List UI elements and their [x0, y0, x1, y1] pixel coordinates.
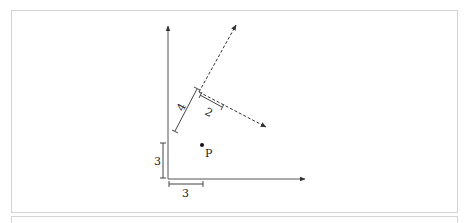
local-x-length-dimension: 2: [199, 92, 224, 120]
y-offset-dimension: 3: [154, 143, 166, 178]
local-y-axis-dashed: [199, 25, 236, 92]
point-p: P: [200, 143, 213, 160]
coordinate-diagram: 3 3 4 2 P: [0, 0, 468, 223]
local-x-length-label: 2: [203, 105, 215, 120]
local-y-length-dimension: 4: [172, 87, 200, 133]
x-offset-label: 3: [182, 187, 189, 200]
point-p-label: P: [205, 147, 213, 160]
y-offset-label: 3: [154, 155, 161, 168]
x-offset-dimension: 3: [169, 181, 203, 200]
local-y-length-label: 4: [174, 101, 189, 113]
